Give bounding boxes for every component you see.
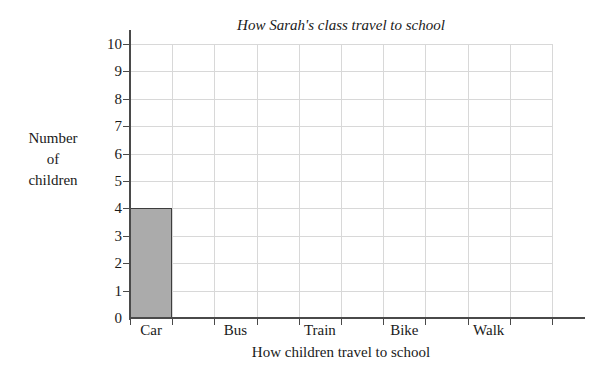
x-tick-mark — [341, 319, 342, 325]
x-tick-mark — [510, 319, 511, 325]
y-axis-tick-labels: 012345678910 — [92, 44, 122, 318]
y-tick-label: 4 — [96, 201, 122, 216]
x-tick-label-bike: Bike — [362, 322, 446, 338]
x-tick-label-bus: Bus — [194, 322, 278, 338]
x-axis-tick-labels: CarBusTrainBikeWalk — [130, 322, 552, 342]
y-tick-label: 1 — [96, 283, 122, 298]
gridline-vertical — [257, 44, 258, 318]
x-tick-mark — [214, 319, 215, 325]
y-axis-title-line: of — [10, 149, 96, 170]
bar-car — [130, 208, 172, 318]
x-axis-line — [130, 317, 585, 319]
x-tick-mark — [468, 319, 469, 325]
y-tick-label: 9 — [96, 64, 122, 79]
x-tick-label-train: Train — [278, 322, 362, 338]
y-tick-label: 6 — [96, 146, 122, 161]
y-tick-mark — [123, 154, 130, 155]
gridline-vertical — [552, 44, 553, 318]
x-tick-mark — [552, 319, 553, 325]
y-tick-mark — [123, 126, 130, 127]
gridline-vertical — [172, 44, 173, 318]
x-tick-mark — [257, 319, 258, 325]
y-tick-label: 5 — [96, 174, 122, 189]
gridline-vertical — [341, 44, 342, 318]
x-tick-mark — [299, 319, 300, 325]
x-tick-mark — [425, 319, 426, 325]
y-tick-label: 10 — [96, 37, 122, 52]
y-tick-mark — [123, 236, 130, 237]
x-tick-mark — [383, 319, 384, 325]
gridline-vertical — [383, 44, 384, 318]
y-tick-mark — [123, 71, 130, 72]
y-tick-label: 3 — [96, 228, 122, 243]
x-tick-mark — [130, 319, 131, 325]
plot-area — [130, 44, 552, 318]
y-tick-label: 2 — [96, 256, 122, 271]
bar-chart: How Sarah's class travel to school 01234… — [0, 0, 607, 374]
y-tick-mark — [123, 291, 130, 292]
gridline-vertical — [299, 44, 300, 318]
y-tick-mark — [123, 208, 130, 209]
y-axis-line — [129, 30, 131, 320]
gridline-vertical — [425, 44, 426, 318]
chart-title: How Sarah's class travel to school — [130, 16, 552, 34]
x-axis-title: How children travel to school — [130, 344, 552, 361]
y-axis-title-line: children — [10, 170, 96, 191]
x-tick-mark — [172, 319, 173, 325]
y-tick-mark — [123, 181, 130, 182]
gridline-vertical — [510, 44, 511, 318]
y-axis-title-line: Number — [10, 128, 96, 149]
y-tick-label: 7 — [96, 119, 122, 134]
x-tick-label-walk: Walk — [447, 322, 531, 338]
y-tick-mark — [123, 99, 130, 100]
x-tick-label-car: Car — [109, 322, 193, 338]
y-axis-title: Numberofchildren — [10, 128, 96, 191]
gridline-vertical — [214, 44, 215, 318]
gridline-vertical — [468, 44, 469, 318]
y-tick-mark — [123, 263, 130, 264]
y-tick-mark — [123, 44, 130, 45]
y-tick-label: 8 — [96, 91, 122, 106]
